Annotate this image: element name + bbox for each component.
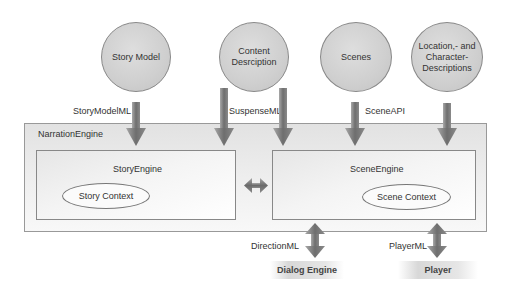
direction-ml-arrow-icon <box>305 223 325 258</box>
suspense-ml-arrow-right-icon <box>273 88 293 146</box>
suspense-ml-arrow-left-icon <box>214 88 234 146</box>
player-box: Player <box>398 261 478 279</box>
player-ml-arrow-icon <box>427 223 447 258</box>
direction-ml-label: DirectionML <box>251 241 299 251</box>
player-ml-label: PlayerML <box>389 241 427 251</box>
scene-api-arrow-icon <box>345 102 365 146</box>
engine-link-arrow-icon <box>244 178 268 193</box>
player-label: Player <box>424 265 451 275</box>
location-arrow-icon <box>437 103 457 146</box>
dialog-engine-label: Dialog Engine <box>277 265 337 275</box>
dialog-engine-box: Dialog Engine <box>270 261 344 279</box>
story-model-ml-arrow-icon <box>126 102 146 146</box>
